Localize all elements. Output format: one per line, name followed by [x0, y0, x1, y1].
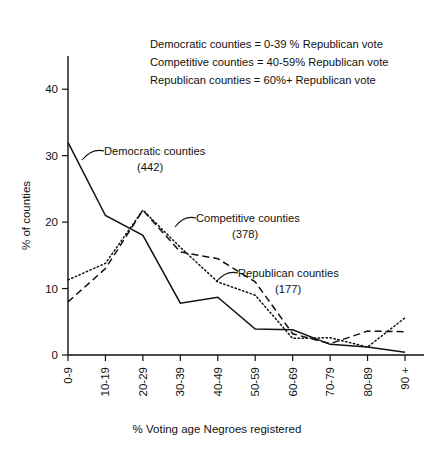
leader-line-democratic	[82, 150, 104, 160]
annotation-label-republican: Republican counties	[238, 267, 339, 279]
x-tick-label: 40-49	[212, 367, 224, 396]
y-tick-label: 40	[45, 83, 58, 95]
y-axis-title: % of counties	[20, 181, 32, 250]
y-tick-label: 0	[52, 349, 58, 361]
definition-line-democratic: Democratic counties = 0-39 % Republican …	[150, 38, 383, 50]
y-tick-label: 10	[45, 283, 58, 295]
x-tick-label: 20-29	[137, 367, 149, 396]
x-axis-title: % Voting age Negroes registered	[133, 423, 302, 435]
leader-line-competitive	[175, 217, 196, 227]
x-tick-label: 80-89	[362, 367, 374, 396]
leader-line-republican	[216, 272, 238, 282]
x-tick-label: 70-79	[324, 367, 336, 396]
annotation-count-republican: (177)	[275, 283, 301, 295]
annotation-count-competitive: (378)	[232, 228, 258, 240]
x-tick-label: 30-39	[174, 367, 186, 396]
annotation-label-democratic: Democratic counties	[104, 145, 206, 157]
series-line-democratic	[68, 142, 405, 352]
y-tick-label: 30	[45, 150, 58, 162]
annotation-count-democratic: (442)	[137, 161, 163, 173]
x-tick-label: 60-69	[287, 367, 299, 396]
x-tick-group: 0-910-1920-2930-3940-4950-5960-6970-7980…	[62, 355, 411, 396]
line-chart: 010203040 0-910-1920-2930-3940-4950-5960…	[0, 0, 433, 450]
y-tick-group: 010203040	[45, 83, 68, 361]
x-tick-label: 0-9	[62, 367, 74, 384]
definition-line-competitive: Competitive counties = 40-59% Republican…	[150, 56, 389, 68]
x-tick-label: 50-59	[249, 367, 261, 396]
chart-container: 010203040 0-910-1920-2930-3940-4950-5960…	[0, 0, 433, 450]
definition-line-republican: Republican counties = 60%+ Republican vo…	[150, 74, 376, 86]
x-tick-label: 90 +	[399, 367, 411, 390]
annotation-label-competitive: Competitive counties	[196, 212, 300, 224]
y-tick-label: 20	[45, 216, 58, 228]
x-tick-label: 10-19	[99, 367, 111, 396]
